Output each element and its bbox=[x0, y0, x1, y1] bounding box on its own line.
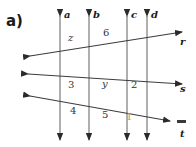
vertical-line-label-c: c bbox=[131, 10, 137, 20]
geometry-figure: a) a b c d r s t z 6 3 y 2 4 5 1 bbox=[0, 0, 196, 147]
angle-label-1: 1 bbox=[126, 112, 132, 122]
angle-label-6: 6 bbox=[103, 28, 109, 38]
angle-label-y: y bbox=[102, 79, 108, 89]
transversal-line-label-s: s bbox=[180, 84, 186, 94]
transversal-line-t bbox=[30, 96, 170, 121]
transversal-line-label-r: r bbox=[180, 37, 185, 47]
angle-label-z: z bbox=[68, 33, 73, 43]
figure-canvas bbox=[0, 0, 196, 147]
vertical-line-label-a: a bbox=[64, 10, 70, 20]
vertical-line-label-b: b bbox=[93, 10, 100, 20]
angle-label-3: 3 bbox=[68, 80, 74, 90]
transversal-lines-group bbox=[28, 32, 182, 121]
part-label: a) bbox=[6, 14, 23, 29]
transversal-line-label-t: t bbox=[180, 129, 185, 139]
vertical-line-label-d: d bbox=[151, 10, 158, 20]
angle-label-4: 4 bbox=[70, 106, 76, 116]
t-line-tick-mark bbox=[177, 120, 186, 123]
angle-label-2: 2 bbox=[131, 80, 137, 90]
angle-label-5: 5 bbox=[102, 110, 108, 120]
